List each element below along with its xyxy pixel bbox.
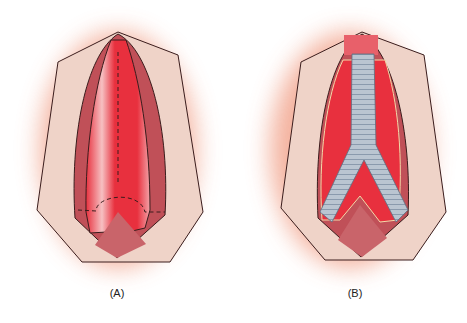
medical-illustration — [0, 0, 467, 323]
panel-b-label: (B) — [335, 287, 375, 299]
panel-a — [37, 32, 203, 268]
panel-b — [270, 32, 446, 268]
panel-a-label: (A) — [97, 287, 137, 299]
